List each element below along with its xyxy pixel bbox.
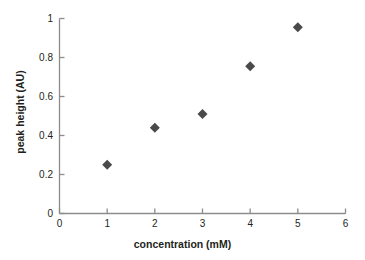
data-point-marker <box>102 160 112 170</box>
x-tick-label: 5 <box>278 218 318 229</box>
x-axis-title: concentration (mM) <box>0 238 365 250</box>
data-point-marker <box>150 123 160 133</box>
y-tick-label: 0.8 <box>8 52 53 63</box>
y-tick-label: 0.6 <box>8 91 53 102</box>
y-tick-label: 0.4 <box>8 130 53 141</box>
y-tick-label: 0 <box>8 208 53 219</box>
x-tick-label: 4 <box>230 218 270 229</box>
x-tick-label: 0 <box>40 218 80 229</box>
data-point-marker <box>245 61 255 71</box>
x-tick-label: 1 <box>87 218 127 229</box>
data-point-marker <box>198 109 208 119</box>
y-axis-title: peak height (AU) <box>14 52 26 172</box>
scatter-chart: peak height (AU) concentration (mM) 0123… <box>0 0 365 260</box>
y-tick-label: 1 <box>8 13 53 24</box>
y-tick-label: 0.2 <box>8 169 53 180</box>
x-tick-label: 6 <box>326 218 365 229</box>
data-point-marker <box>293 22 303 32</box>
x-tick-label: 2 <box>135 218 175 229</box>
x-tick-label: 3 <box>183 218 223 229</box>
